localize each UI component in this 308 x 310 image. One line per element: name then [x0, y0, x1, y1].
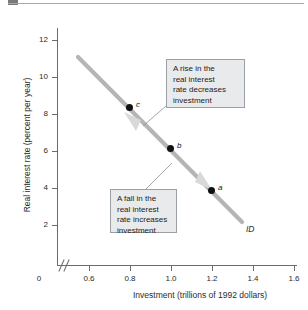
rise-annotation-box: A rise in the real interest rate decreas… — [166, 59, 245, 108]
fall-annotation-line-3: rate increases — [117, 215, 171, 226]
data-point-label-a: a — [218, 183, 222, 192]
investment-demand-figure: 12 10 8 6 4 2 0 0.6 0.8 1.0 1.2 1.4 1.6 … — [0, 0, 308, 310]
fall-annotation-line-2: real interest — [117, 205, 171, 216]
data-point-label-c: c — [136, 100, 140, 109]
rise-annotation-line-3: rate decreases — [173, 85, 239, 96]
data-point-b — [167, 145, 174, 152]
callout-leader-lines — [0, 0, 308, 310]
rise-annotation-line-4: investment — [173, 96, 239, 107]
data-point-label-b: b — [177, 141, 181, 150]
rise-annotation-line-1: A rise in the — [173, 64, 239, 75]
rise-callout-leader — [143, 106, 166, 126]
fall-callout-leader — [146, 163, 172, 189]
fall-annotation-box: A fall in the real interest rate increas… — [110, 189, 177, 233]
data-point-a — [208, 187, 215, 194]
fall-annotation-line-4: investment — [117, 226, 171, 237]
data-point-c — [126, 104, 133, 111]
curve-name-label: ID — [246, 224, 255, 234]
fall-annotation-line-1: A fall in the — [117, 194, 171, 205]
rise-annotation-line-2: real interest — [173, 75, 239, 86]
